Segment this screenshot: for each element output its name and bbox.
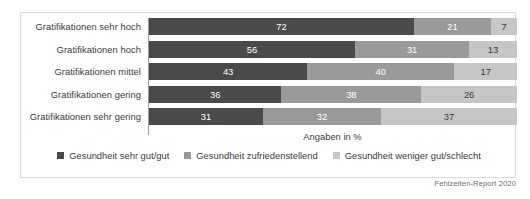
legend-swatch-icon: [333, 152, 340, 159]
legend-swatch-icon: [57, 152, 64, 159]
stacked-bar: 31 32 37: [148, 108, 517, 125]
legend-label: Gesundheit zufriedenstellend: [196, 150, 317, 161]
legend-item-weniger-gut-schlecht[interactable]: Gesundheit weniger gut/schlecht: [333, 150, 481, 161]
bar-segment-sehr-gut-gut[interactable]: 31: [149, 108, 263, 125]
category-label: Gratifikationen gering: [21, 89, 148, 100]
bar-segment-zufriedenstellend[interactable]: 31: [355, 41, 469, 58]
bar-row: Gratifikationen sehr hoch 72 21 7: [21, 18, 517, 35]
bar-segment-sehr-gut-gut[interactable]: 43: [149, 63, 307, 80]
chart-figure: Gratifikationen sehr hoch 72 21 7 Gratif…: [0, 0, 530, 199]
chart-card: Gratifikationen sehr hoch 72 21 7 Gratif…: [20, 12, 516, 178]
bar-segment-weniger-gut-schlecht[interactable]: 7: [491, 18, 517, 35]
bar-segment-zufriedenstellend[interactable]: 32: [263, 108, 381, 125]
bar-segment-zufriedenstellend[interactable]: 38: [281, 86, 421, 103]
axis-caption: Angaben in %: [148, 131, 517, 142]
bar-segment-sehr-gut-gut[interactable]: 72: [149, 18, 414, 35]
category-label: Gratifikationen sehr hoch: [21, 21, 148, 32]
category-label: Gratifikationen sehr gering: [21, 111, 148, 122]
plot-area: Gratifikationen sehr hoch 72 21 7 Gratif…: [21, 13, 517, 133]
category-label: Gratifikationen mittel: [21, 66, 148, 77]
stacked-bar: 36 38 26: [148, 86, 517, 103]
source-note: Fehlzeiten-Report 2020: [20, 179, 516, 188]
category-label: Gratifikationen hoch: [21, 44, 148, 55]
bar-row: Gratifikationen hoch 56 31 13: [21, 41, 517, 58]
bar-segment-sehr-gut-gut[interactable]: 36: [149, 86, 281, 103]
bar-segment-weniger-gut-schlecht[interactable]: 37: [381, 108, 517, 125]
bar-row: Gratifikationen gering 36 38 26: [21, 86, 517, 103]
chart-legend: Gesundheit sehr gut/gut Gesundheit zufri…: [21, 150, 517, 161]
legend-label: Gesundheit weniger gut/schlecht: [345, 150, 481, 161]
legend-item-sehr-gut-gut[interactable]: Gesundheit sehr gut/gut: [57, 150, 169, 161]
legend-swatch-icon: [184, 152, 191, 159]
stacked-bar: 43 40 17: [148, 63, 517, 80]
bar-row: Gratifikationen sehr gering 31 32 37: [21, 108, 517, 125]
bar-segment-weniger-gut-schlecht[interactable]: 17: [454, 63, 517, 80]
bar-segment-sehr-gut-gut[interactable]: 56: [149, 41, 355, 58]
legend-item-zufriedenstellend[interactable]: Gesundheit zufriedenstellend: [184, 150, 317, 161]
stacked-bar: 56 31 13: [148, 41, 517, 58]
legend-label: Gesundheit sehr gut/gut: [69, 150, 169, 161]
stacked-bar: 72 21 7: [148, 18, 517, 35]
bar-segment-weniger-gut-schlecht[interactable]: 26: [421, 86, 517, 103]
bar-rows: Gratifikationen sehr hoch 72 21 7 Gratif…: [21, 18, 517, 131]
bar-segment-zufriedenstellend[interactable]: 21: [414, 18, 491, 35]
bar-segment-weniger-gut-schlecht[interactable]: 13: [469, 41, 517, 58]
bar-row: Gratifikationen mittel 43 40 17: [21, 63, 517, 80]
bar-segment-zufriedenstellend[interactable]: 40: [307, 63, 454, 80]
